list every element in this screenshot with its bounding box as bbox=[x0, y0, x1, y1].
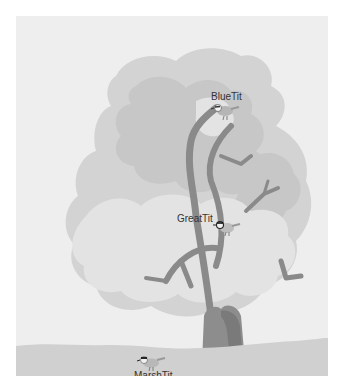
greattit-label: GreatTit bbox=[177, 213, 213, 224]
marshtit-label: MarshTit bbox=[134, 370, 173, 376]
tree-scene bbox=[16, 16, 328, 376]
bluetit-label: BlueTit bbox=[211, 91, 242, 102]
illustration-panel: BlueTit GreatTit MarshTit bbox=[16, 16, 328, 376]
